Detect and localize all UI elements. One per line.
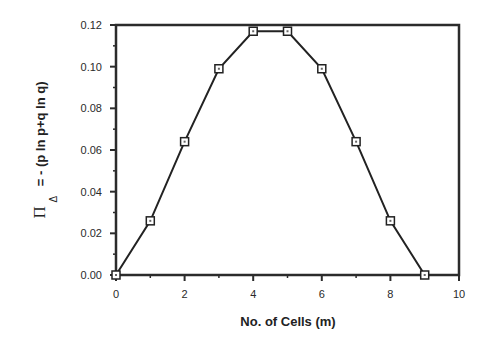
data-series <box>112 27 429 279</box>
y-tick-label: 0.00 <box>81 269 102 281</box>
y-tick-label: 0.02 <box>81 227 102 239</box>
x-tick-labels: 0246810 <box>113 288 465 300</box>
x-axis-title: No. of Cells (m) <box>240 314 335 329</box>
svg-text:Π Δ = - (p ln p+q: Π Δ = - (p ln p+q ln q) <box>30 82 60 219</box>
x-tick-label: 8 <box>387 288 393 300</box>
line-chart: 0.000.020.040.060.080.100.12 0246810 No.… <box>0 0 486 355</box>
x-tick-label: 6 <box>319 288 325 300</box>
y-tick-label: 0.08 <box>81 102 102 114</box>
y-tick-label: 0.06 <box>81 144 102 156</box>
y-tick-labels: 0.000.020.040.060.080.100.12 <box>81 19 102 281</box>
x-tick-label: 10 <box>453 288 465 300</box>
x-tick-label: 2 <box>182 288 188 300</box>
series-line <box>116 31 425 275</box>
y-axis-formula: = - (p ln p+q ln q) <box>33 82 48 187</box>
y-axis-subscript: Δ <box>48 196 59 203</box>
y-tick-label: 0.04 <box>81 186 102 198</box>
y-axis-title: Π Δ = - (p ln p+q ln q) <box>30 82 60 219</box>
y-axis-symbol: Π <box>30 206 49 218</box>
y-tick-label: 0.12 <box>81 19 102 31</box>
axis-ticks <box>110 25 459 281</box>
x-tick-label: 0 <box>113 288 119 300</box>
plot-frame <box>116 25 459 275</box>
x-tick-label: 4 <box>250 288 256 300</box>
y-tick-label: 0.10 <box>81 61 102 73</box>
